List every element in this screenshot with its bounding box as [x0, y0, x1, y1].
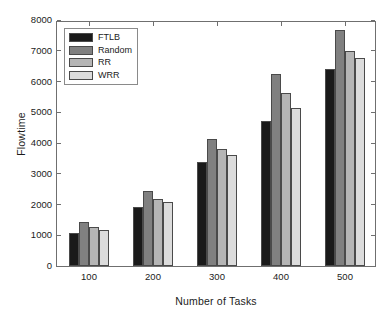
bar — [163, 202, 173, 266]
bar — [271, 74, 281, 266]
y-tick-mark — [57, 81, 61, 82]
bar — [99, 230, 109, 266]
bar — [207, 139, 217, 266]
y-tick-mark-right — [371, 235, 375, 236]
legend-swatch — [69, 58, 93, 67]
x-tick-label: 300 — [195, 271, 239, 282]
bar — [89, 227, 99, 266]
bar — [133, 207, 143, 266]
y-tick-mark — [57, 173, 61, 174]
y-tick-label: 3000 — [31, 168, 52, 179]
y-tick-label: 2000 — [31, 199, 52, 210]
bar — [227, 155, 237, 266]
y-tick-label: 6000 — [31, 76, 52, 87]
legend-item: RR — [69, 57, 132, 68]
y-tick-mark — [57, 50, 61, 51]
y-tick-mark-right — [371, 50, 375, 51]
y-tick-mark-right — [371, 81, 375, 82]
y-tick-label: 5000 — [31, 106, 52, 117]
bar-group — [261, 22, 301, 266]
plot-area: 010002000300040005000600070008000 100200… — [56, 21, 376, 267]
legend-label: Random — [98, 46, 132, 55]
y-tick-mark-right — [371, 112, 375, 113]
bar-group — [133, 22, 173, 266]
y-tick-label: 0 — [47, 260, 52, 271]
y-tick-mark — [57, 235, 61, 236]
y-tick-mark — [57, 204, 61, 205]
legend-item: FTLB — [69, 32, 132, 43]
bar — [69, 233, 79, 266]
x-tick-label: 200 — [131, 271, 175, 282]
legend-label: FTLB — [98, 33, 120, 42]
y-tick-label: 4000 — [31, 137, 52, 148]
x-axis-title: Number of Tasks — [56, 295, 376, 307]
y-axis-title: Flowtime — [15, 79, 27, 189]
legend: FTLBRandomRRWRR — [64, 28, 138, 85]
y-tick-mark-right — [371, 143, 375, 144]
bar — [345, 51, 355, 266]
y-tick-label: 7000 — [31, 45, 52, 56]
y-tick-label: 8000 — [31, 14, 52, 25]
y-tick-mark-right — [371, 20, 375, 21]
y-tick-mark-right — [371, 204, 375, 205]
y-tick-label: 1000 — [31, 229, 52, 240]
bar — [79, 222, 89, 266]
y-tick-mark-right — [371, 173, 375, 174]
legend-label: WRR — [98, 71, 120, 80]
bar — [153, 199, 163, 266]
bar — [291, 108, 301, 266]
legend-item: WRR — [69, 70, 132, 81]
legend-label: RR — [98, 58, 111, 67]
bar — [325, 69, 335, 266]
bar — [335, 30, 345, 266]
bar — [281, 93, 291, 266]
bar — [197, 162, 207, 266]
y-tick-mark — [57, 20, 61, 21]
legend-swatch — [69, 46, 93, 55]
y-tick-mark-right — [371, 266, 375, 267]
bar — [217, 149, 227, 266]
figure-canvas: Flowtime Number of Tasks 010002000300040… — [0, 0, 391, 321]
x-tick-label: 500 — [323, 271, 367, 282]
bar-group — [197, 22, 237, 266]
legend-swatch — [69, 71, 93, 80]
legend-item: Random — [69, 45, 132, 56]
bar — [261, 121, 271, 266]
y-tick-mark — [57, 143, 61, 144]
bar-group — [325, 22, 365, 266]
y-tick-mark — [57, 112, 61, 113]
legend-swatch — [69, 33, 93, 42]
bar — [143, 191, 153, 266]
x-tick-label: 400 — [259, 271, 303, 282]
x-tick-label: 100 — [67, 271, 111, 282]
y-tick-mark — [57, 266, 61, 267]
bar — [355, 58, 365, 266]
